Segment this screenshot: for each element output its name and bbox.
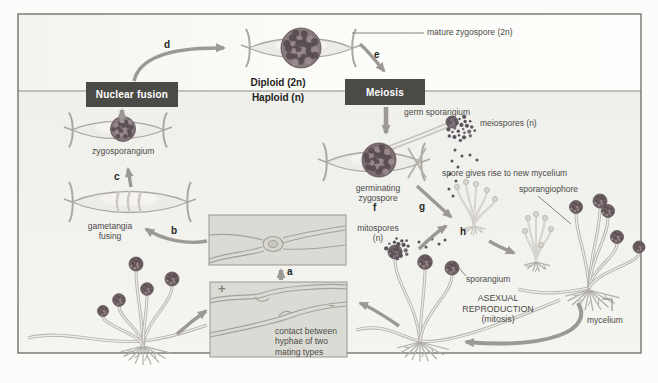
step-f: f [373,202,376,213]
step-e: e [374,49,380,60]
spore-new-mycelium-label: spore gives rise to new mycelium [442,168,567,178]
mitospores-label: mitospores (n) [352,223,404,244]
mature-zygospore-label: mature zygospore (2n) [427,27,513,37]
life-cycle-diagram: mature zygospore (2n) d e Diploid (2n) H… [0,0,658,383]
asexual-reproduction-label: ASEXUAL REPRODUCTION (mitosis) [452,293,544,325]
minus-mating-type-label: − [329,300,335,311]
hyphae-fusion-inset [209,215,346,265]
germ-sporangium-label: germ sporangium [404,107,470,117]
meiosis-box: Meiosis [345,79,425,105]
step-c: c [114,171,120,182]
step-a: a [287,266,293,277]
step-g: g [419,201,425,212]
sporangium-label: sporangium [466,274,510,284]
step-h: h [460,226,466,237]
gametangia-fusing-label: gametangia fusing [78,221,142,242]
nuclear-fusion-box: Nuclear fusion [86,82,178,107]
step-b: b [171,225,177,236]
step-d: d [164,39,170,50]
sporangiophore-label: sporangiophore [519,184,578,194]
mycelium-label: mycelium [587,315,623,325]
haploid-phase-label: Haploid (n) [230,92,326,103]
contact-hyphae-label: contact between hyphae of two mating typ… [275,326,337,357]
germinating-zygospore-label: germinating zygospore [342,183,414,204]
plus-mating-type-label: + [218,281,226,296]
zygosporangium-label: zygosporangium [92,146,154,156]
meiospores-label: meiospores (n) [480,118,537,128]
diploid-phase-label: Diploid (2n) [230,77,326,88]
